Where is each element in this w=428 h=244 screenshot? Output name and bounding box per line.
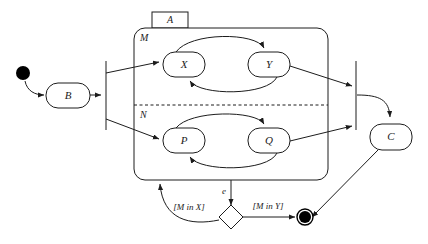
state-b-label: B <box>65 89 72 101</box>
state-q[interactable]: Q <box>248 128 290 153</box>
state-p[interactable]: P <box>163 128 205 153</box>
state-p-label: P <box>180 134 188 146</box>
state-c[interactable]: C <box>370 124 412 150</box>
guard-m-in-y-label: [M in Y] <box>252 201 284 211</box>
region-label-n: N <box>139 109 148 120</box>
transition-join-to-c <box>357 95 390 117</box>
event-e-label: e <box>222 186 226 196</box>
state-q-label: Q <box>265 134 273 146</box>
composite-name-label: A <box>166 14 174 25</box>
state-x-label: X <box>180 58 189 70</box>
final-state <box>297 209 313 225</box>
transition-initial-to-b <box>25 81 44 95</box>
composite-state-body <box>134 28 328 180</box>
state-c-label: C <box>387 130 395 142</box>
state-b[interactable]: B <box>46 83 90 108</box>
final-state-dot <box>299 211 311 223</box>
state-x[interactable]: X <box>163 52 205 77</box>
initial-state-dot <box>16 66 30 80</box>
guard-m-in-x-label: [M in X] <box>173 202 205 212</box>
diagram-canvas: A M N X Y P <box>0 0 428 244</box>
choice-diamond[interactable] <box>219 205 243 229</box>
state-y[interactable]: Y <box>248 52 290 77</box>
composite-state-a[interactable]: A M N X Y P <box>134 12 328 180</box>
region-label-m: M <box>139 32 149 43</box>
state-machine-diagram: A M N X Y P <box>0 0 428 244</box>
